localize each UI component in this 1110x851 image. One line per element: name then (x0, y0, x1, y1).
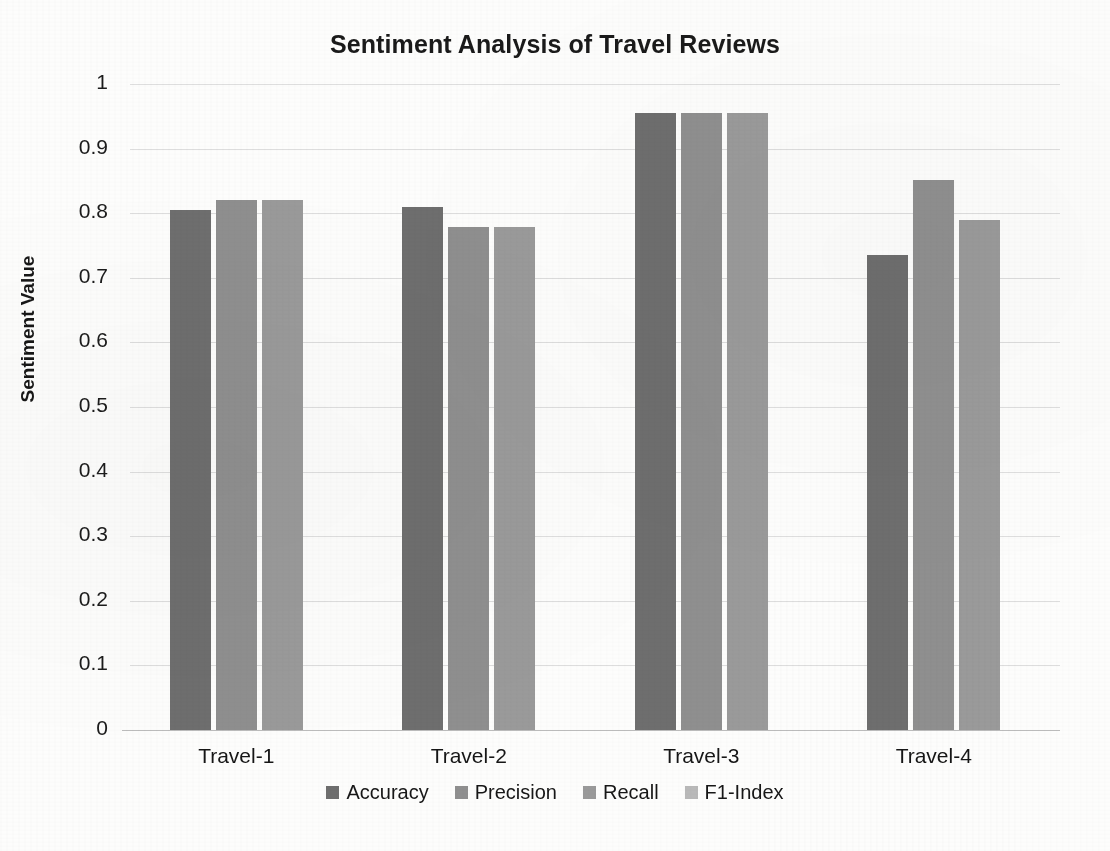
x-axis-label-travel-4: Travel-4 (818, 744, 1051, 768)
bar-chart: Sentiment Analysis of Travel Reviews Sen… (0, 0, 1110, 851)
y-axis-tick-label: 0.3 (22, 522, 108, 546)
x-axis-line (122, 730, 1060, 731)
legend-label: Recall (603, 781, 659, 804)
legend-swatch-icon (455, 786, 468, 799)
x-axis-label-travel-1: Travel-1 (120, 744, 353, 768)
y-axis-tick-label: 0.5 (22, 393, 108, 417)
bar-recall-travel-4 (959, 220, 1000, 730)
legend-label: Accuracy (346, 781, 428, 804)
x-axis-label-travel-3: Travel-3 (585, 744, 818, 768)
y-axis-tick-label: 0.6 (22, 328, 108, 352)
y-axis-tick-label: 0.9 (22, 135, 108, 159)
bar-accuracy-travel-3 (635, 113, 676, 730)
y-axis-tick-label: 0.2 (22, 587, 108, 611)
bar-precision-travel-4 (913, 180, 954, 730)
bar-precision-travel-3 (681, 113, 722, 730)
bar-accuracy-travel-2 (402, 207, 443, 730)
y-axis-tick-label: 0.4 (22, 458, 108, 482)
y-axis-tick-label: 0.1 (22, 651, 108, 675)
chart-legend: AccuracyPrecisionRecallF1-Index (0, 781, 1110, 804)
legend-item-precision[interactable]: Precision (455, 781, 557, 804)
legend-label: Precision (475, 781, 557, 804)
legend-swatch-icon (685, 786, 698, 799)
bar-accuracy-travel-4 (867, 255, 908, 730)
bar-recall-travel-2 (494, 227, 535, 730)
y-axis-tick-label: 0 (22, 716, 108, 740)
legend-item-accuracy[interactable]: Accuracy (326, 781, 428, 804)
bar-recall-travel-3 (727, 113, 768, 730)
legend-label: F1-Index (705, 781, 784, 804)
bar-precision-travel-2 (448, 227, 489, 730)
bar-recall-travel-1 (262, 200, 303, 730)
legend-item-f1-index[interactable]: F1-Index (685, 781, 784, 804)
y-axis-tick-label: 1 (22, 70, 108, 94)
legend-item-recall[interactable]: Recall (583, 781, 659, 804)
legend-swatch-icon (326, 786, 339, 799)
x-axis-label-travel-2: Travel-2 (353, 744, 586, 768)
plot-area: 10.90.80.70.60.50.40.30.20.10 Travel-1Tr… (130, 84, 1060, 730)
legend-swatch-icon (583, 786, 596, 799)
gridline (130, 149, 1060, 150)
bar-precision-travel-1 (216, 200, 257, 730)
gridline (130, 84, 1060, 85)
chart-title: Sentiment Analysis of Travel Reviews (0, 30, 1110, 59)
bar-accuracy-travel-1 (170, 210, 211, 730)
y-axis-tick-label: 0.8 (22, 199, 108, 223)
y-axis-tick-label: 0.7 (22, 264, 108, 288)
